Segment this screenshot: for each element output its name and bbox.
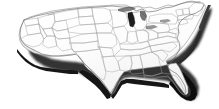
- us-map-figure: [0, 0, 219, 109]
- us-map-graphic: [0, 0, 219, 109]
